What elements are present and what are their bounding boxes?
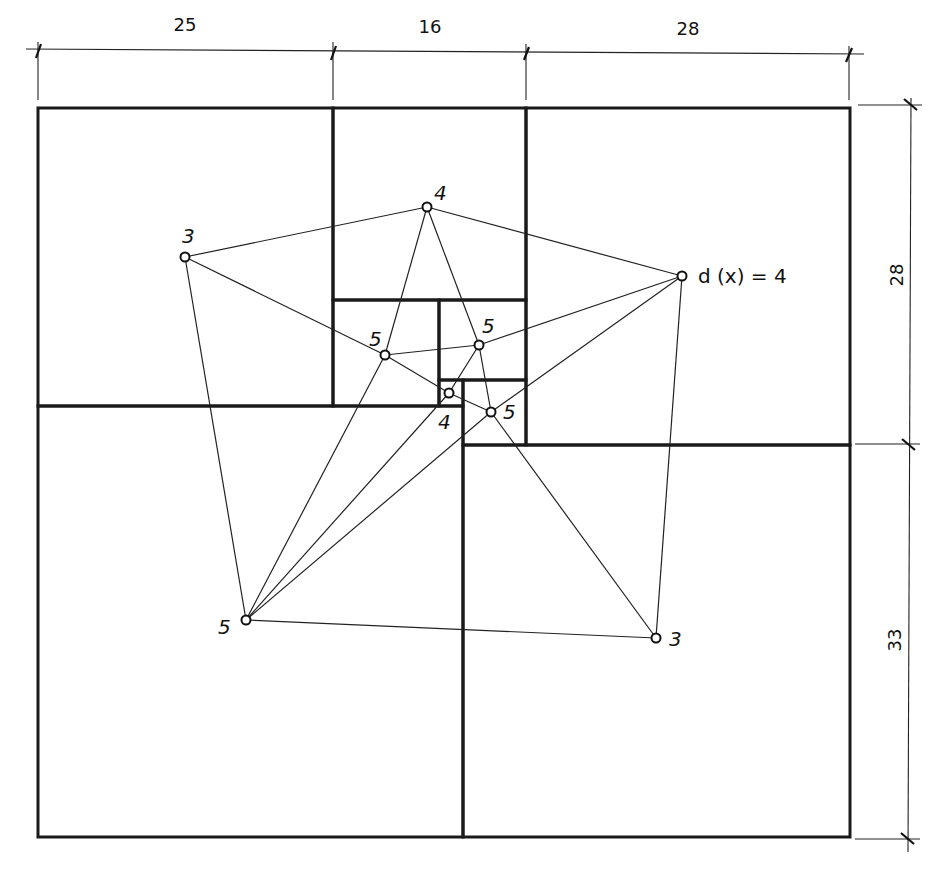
square-5	[439, 300, 526, 380]
edge-B-C	[427, 207, 682, 276]
vertex-A	[181, 253, 190, 262]
edge-C-I	[656, 276, 682, 638]
vertex-degree-label: 3	[182, 224, 195, 248]
vertex-D	[381, 351, 390, 360]
edge-D-E	[385, 345, 479, 355]
edge-B-E	[427, 207, 479, 345]
vertex-E	[475, 341, 484, 350]
edge-A-B	[185, 207, 427, 257]
edge-F-G	[449, 393, 491, 412]
dimension-label-top-2: 16	[419, 16, 442, 37]
vertex-degree-label: 5	[218, 615, 231, 639]
right-dimension-line	[855, 98, 922, 852]
edge-C-G	[491, 276, 682, 412]
square-3	[526, 108, 850, 445]
vertex-degree-label: 4	[438, 410, 451, 434]
vertex-I	[652, 634, 661, 643]
vertex-C	[678, 272, 687, 281]
dimension-label-right-1: 28	[886, 264, 907, 287]
graph-vertices: 34554553	[181, 181, 687, 651]
dimension-label-right-2: 33	[884, 629, 905, 652]
vertex-H	[242, 616, 251, 625]
dimension-label-top-3: 28	[677, 18, 700, 39]
vertex-G	[487, 408, 496, 417]
edge-B-D	[385, 207, 427, 355]
vertex-F	[445, 389, 454, 398]
squares-group	[38, 108, 850, 837]
vertex-degree-label: 3	[669, 627, 682, 651]
dimension-label-top-1: 25	[174, 14, 197, 35]
edge-A-H	[185, 257, 246, 620]
edge-H-I	[246, 620, 656, 638]
vertex-degree-label: 5	[503, 400, 516, 424]
vertex-degree-label: 5	[369, 327, 382, 351]
vertex-degree-label: 5	[482, 314, 495, 338]
squared-rectangle-diagram: 25 16 28 28 33 34554553 d (x) = 4	[0, 0, 950, 870]
edge-A-D	[185, 257, 385, 355]
vertex-degree-label: 4	[434, 181, 447, 205]
edge-G-H	[246, 412, 491, 620]
top-dimension-line	[26, 42, 864, 100]
graph-edges	[185, 207, 682, 638]
vertex-degree-annotation: d (x) = 4	[698, 264, 787, 288]
edge-C-E	[479, 276, 682, 345]
vertex-B	[423, 203, 432, 212]
